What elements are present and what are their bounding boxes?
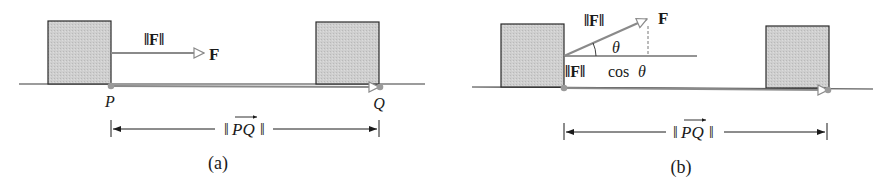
point-p-label: P xyxy=(104,93,115,110)
svg-text:PQ: PQ xyxy=(231,120,255,139)
block-initial xyxy=(501,24,564,87)
point-q xyxy=(825,87,832,94)
panel-a: ‖F‖ F P Q ‖ PQ ‖ (a) xyxy=(19,21,425,174)
svg-text:cos: cos xyxy=(608,63,629,80)
force-magnitude-label: ‖F‖ xyxy=(584,12,604,29)
force-magnitude-label: ‖F‖ xyxy=(144,31,164,48)
point-p xyxy=(108,83,115,90)
svg-text:‖: ‖ xyxy=(709,123,714,142)
point-q xyxy=(377,84,384,91)
point-p xyxy=(561,85,568,92)
panel-b: ‖F‖ F θ ‖F‖ cos θ ‖ PQ ‖ (b) xyxy=(472,9,873,178)
svg-text:‖: ‖ xyxy=(224,120,229,139)
force-vector-label: F xyxy=(209,45,219,64)
angle-label: θ xyxy=(612,39,620,56)
caption-b: (b) xyxy=(671,157,692,178)
displacement-vector xyxy=(111,86,379,87)
caption-a: (a) xyxy=(208,153,228,174)
distance-label: ‖ PQ ‖ xyxy=(224,117,265,139)
component-label: ‖F‖ cos θ xyxy=(565,63,646,80)
angle-arc xyxy=(593,43,596,56)
svg-text:‖: ‖ xyxy=(260,120,265,139)
svg-text:‖F‖: ‖F‖ xyxy=(565,63,585,80)
work-diagram: ‖F‖ F P Q ‖ PQ ‖ (a) ‖F‖ xyxy=(0,0,879,191)
svg-text:θ: θ xyxy=(638,63,646,80)
block-final xyxy=(316,22,379,84)
force-vector xyxy=(564,19,647,56)
svg-text:‖: ‖ xyxy=(673,123,678,142)
point-q-label: Q xyxy=(373,95,385,112)
svg-text:PQ: PQ xyxy=(680,123,704,142)
block-final xyxy=(766,26,829,88)
force-vector-label: F xyxy=(658,9,668,28)
distance-label: ‖ PQ ‖ xyxy=(673,120,714,142)
block-initial xyxy=(48,21,111,84)
